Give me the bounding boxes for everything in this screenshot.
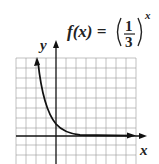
fraction-numerator: 1	[125, 18, 133, 34]
function-curve	[38, 62, 132, 136]
curve-arrow-right	[127, 133, 136, 139]
x-axis-label: x	[139, 142, 148, 158]
curve-arrow-up	[34, 57, 40, 66]
y-axis	[53, 40, 59, 164]
function-formula: f(x) = 1 3 x	[67, 9, 151, 50]
exponential-graph: y x f(x) = 1 3 x	[0, 0, 159, 164]
grid	[16, 58, 136, 164]
exponent: x	[144, 9, 151, 21]
left-paren	[118, 18, 122, 46]
y-axis-label: y	[38, 37, 47, 53]
right-paren	[138, 18, 142, 46]
formula-lhs: f(x) =	[67, 22, 106, 41]
fraction-denominator: 3	[125, 34, 133, 50]
